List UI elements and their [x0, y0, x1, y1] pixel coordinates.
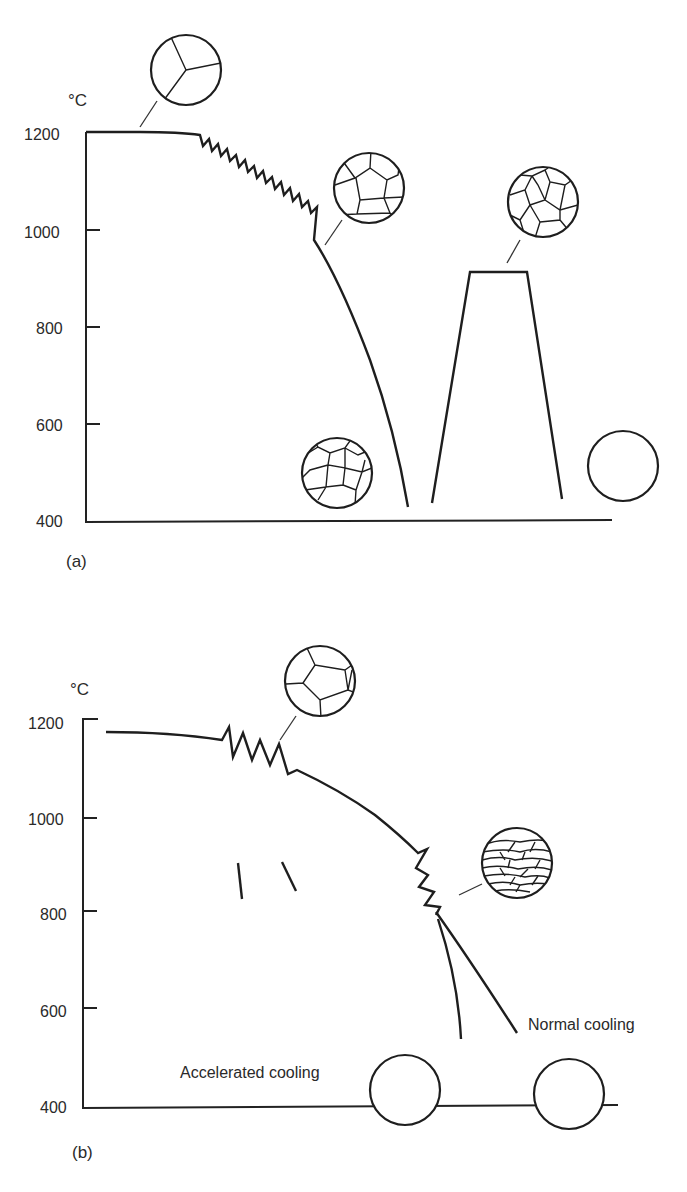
- controlled-rolling-curve-b: [106, 727, 440, 915]
- leader-line-a2: [325, 220, 342, 245]
- leader-line-a1: [140, 101, 157, 127]
- mark-stroke-1: [238, 863, 242, 899]
- micrograph-austenite-after-reheat: [508, 167, 578, 238]
- micrograph-recrystallized-austenite-b: [285, 646, 356, 718]
- normal-cooling-curve-b: [436, 912, 517, 1033]
- accelerated-cooling-curve-b: [438, 919, 461, 1039]
- y-tick-400-b: 400: [40, 1099, 67, 1116]
- micrograph-accelerated-cooled-ferrite: [370, 1055, 440, 1125]
- tick-marks-a: [86, 230, 100, 424]
- unit-label-a: °C: [68, 91, 87, 110]
- micrograph-pancaked-austenite: [482, 828, 552, 898]
- tick-marks-b: [83, 818, 97, 1008]
- y-tick-1000-b: 1000: [28, 811, 64, 828]
- y-tick-800-b: 800: [40, 906, 67, 923]
- micrograph-ferrite-after-normalizing: [588, 431, 658, 501]
- controlled-rolling-diagram: °C 1200 1000 800 600 400: [0, 0, 687, 1192]
- mark-stroke-2: [282, 862, 296, 891]
- panel-b: °C 1200 1000 800 600 400: [28, 646, 635, 1162]
- normal-cooling-label: Normal cooling: [528, 1016, 635, 1033]
- accelerated-cooling-label: Accelerated cooling: [180, 1064, 320, 1081]
- leader-line-a4: [507, 240, 520, 263]
- panel-a: °C 1200 1000 800 600 400: [24, 35, 658, 571]
- y-tick-400-a: 400: [36, 513, 63, 530]
- micrograph-ferrite-after-cooling: [302, 438, 372, 508]
- panel-label-a: (a): [66, 552, 87, 571]
- micrograph-normal-cooled-ferrite: [534, 1059, 604, 1129]
- micrograph-coarse-austenite-1200: [151, 35, 221, 105]
- y-tick-1200-a: 1200: [24, 126, 60, 143]
- y-tick-800-a: 800: [36, 320, 63, 337]
- reheat-curve-a: [432, 272, 562, 503]
- y-tick-600-b: 600: [40, 1003, 67, 1020]
- unit-label-b: °C: [70, 680, 89, 699]
- leader-line-b1: [280, 716, 296, 740]
- y-tick-1200-b: 1200: [28, 715, 64, 732]
- leader-line-b2: [459, 884, 482, 895]
- micrograph-recrystallized-austenite-a: [334, 150, 404, 223]
- y-axis-b: [83, 719, 618, 1108]
- y-tick-1000-a: 1000: [24, 224, 60, 241]
- panel-label-b: (b): [72, 1143, 93, 1162]
- y-tick-600-a: 600: [36, 417, 63, 434]
